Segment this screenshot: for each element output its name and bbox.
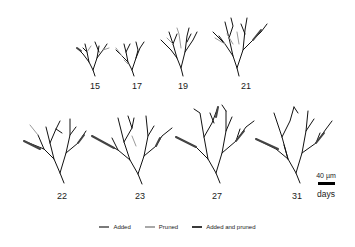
day-label-17: 17 xyxy=(122,81,152,91)
legend-label-added: Added xyxy=(113,224,130,230)
legend-item-pruned: Pruned xyxy=(145,224,178,230)
dendrite-tree-day-19 xyxy=(157,24,202,78)
legend-swatch-added-and-pruned xyxy=(192,226,202,228)
scale-bar-label: 40 µm xyxy=(312,172,340,179)
day-label-15: 15 xyxy=(80,81,110,91)
dendrite-tree-day-17 xyxy=(112,38,152,78)
dendrite-tree-day-15 xyxy=(73,38,113,78)
legend-swatch-added xyxy=(99,226,109,228)
scale-bar: 40 µm days xyxy=(312,172,340,199)
legend-label-pruned: Pruned xyxy=(159,224,178,230)
legend-item-added-and-pruned: Added and pruned xyxy=(192,224,255,230)
day-label-21: 21 xyxy=(231,81,261,91)
day-label-27: 27 xyxy=(202,191,232,201)
days-axis-label: days xyxy=(312,189,340,199)
legend-swatch-pruned xyxy=(145,226,155,228)
dendrite-tree-day-22 xyxy=(20,113,90,185)
legend-item-added: Added xyxy=(99,224,130,230)
day-label-19: 19 xyxy=(168,81,198,91)
dendrite-tree-day-23 xyxy=(88,112,173,186)
legend-label-added-and-pruned: Added and pruned xyxy=(206,224,255,230)
dendrite-tree-day-21 xyxy=(207,14,269,78)
day-label-23: 23 xyxy=(125,191,155,201)
day-label-22: 22 xyxy=(47,191,77,201)
day-label-31: 31 xyxy=(282,191,312,201)
scale-bar-line xyxy=(318,182,335,185)
dendrite-tree-day-27 xyxy=(174,103,256,185)
legend: Added Pruned Added and pruned xyxy=(0,224,355,230)
